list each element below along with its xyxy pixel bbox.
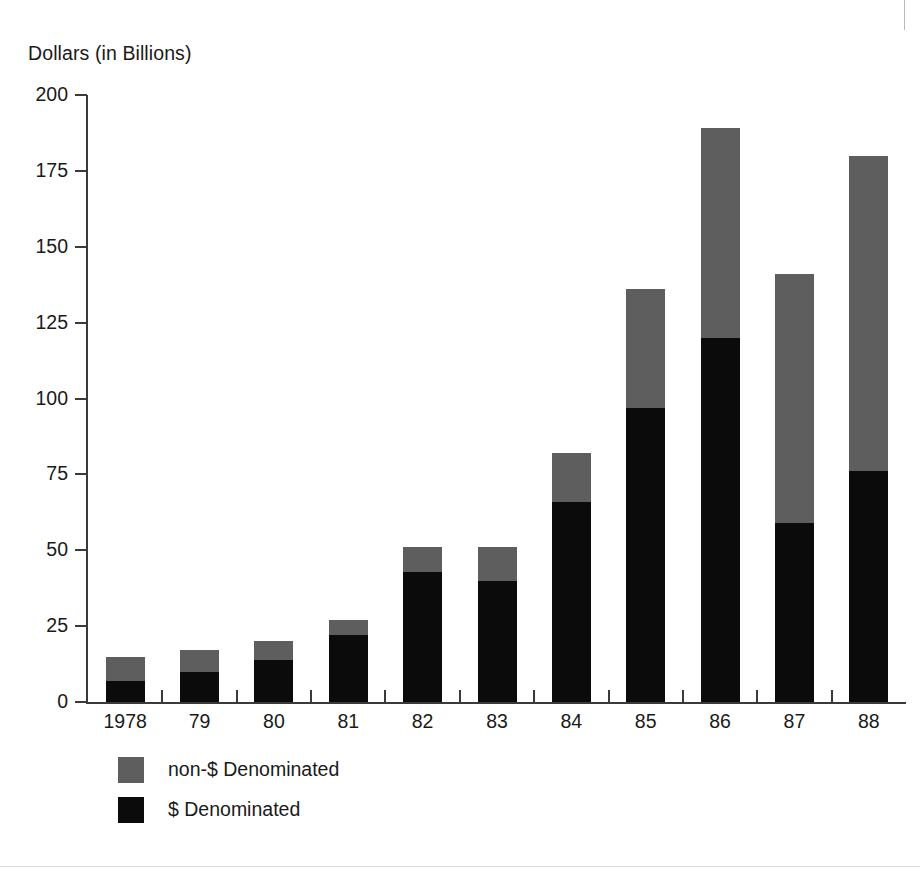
bar-segment-dollar-denominated	[254, 660, 293, 702]
bar-segment-non-dollar-denominated	[106, 657, 145, 681]
bar-segment-dollar-denominated	[626, 408, 665, 702]
bar-segment-non-dollar-denominated	[329, 620, 368, 635]
legend-item: $ Denominated	[118, 790, 538, 830]
legend-label-dollar: $ Denominated	[168, 800, 300, 820]
plot-area: 0255075100125150175200 19787980818283848…	[0, 0, 920, 760]
bar-segment-dollar-denominated	[552, 502, 591, 702]
x-axis-label: 88	[824, 712, 914, 732]
chart-legend: non-$ Denominated$ Denominated	[118, 750, 538, 830]
bar-segment-non-dollar-denominated	[775, 274, 814, 523]
bottom-rule-decoration	[0, 866, 920, 867]
legend-swatch-dollar	[118, 797, 144, 823]
bar-stack	[626, 289, 665, 702]
bar-segment-dollar-denominated	[478, 581, 517, 702]
bar-stack	[701, 128, 740, 702]
bar-segment-non-dollar-denominated	[701, 128, 740, 337]
bar-stack	[552, 453, 591, 702]
bar-segment-dollar-denominated	[849, 471, 888, 702]
bars-layer	[0, 0, 920, 702]
bar-stack	[106, 656, 145, 702]
x-axis-line	[86, 702, 906, 704]
bar-stack	[403, 547, 442, 702]
bar-stack	[775, 274, 814, 702]
chart-page: Dollars (in Billions) 025507510012515017…	[0, 0, 920, 873]
bar-segment-non-dollar-denominated	[849, 156, 888, 472]
bar-stack	[329, 620, 368, 702]
bar-segment-non-dollar-denominated	[626, 289, 665, 407]
bar-segment-dollar-denominated	[329, 635, 368, 702]
bar-segment-dollar-denominated	[403, 572, 442, 703]
bar-segment-non-dollar-denominated	[403, 547, 442, 571]
bar-segment-dollar-denominated	[180, 672, 219, 702]
bar-stack	[180, 650, 219, 702]
legend-item: non-$ Denominated	[118, 750, 538, 790]
bar-segment-dollar-denominated	[701, 338, 740, 702]
legend-swatch-non_dollar	[118, 757, 144, 783]
legend-label-non_dollar: non-$ Denominated	[168, 760, 339, 780]
bar-segment-non-dollar-denominated	[254, 641, 293, 659]
bar-segment-dollar-denominated	[106, 681, 145, 702]
bar-segment-non-dollar-denominated	[180, 650, 219, 671]
bar-stack	[478, 547, 517, 702]
bar-segment-non-dollar-denominated	[478, 547, 517, 580]
bar-stack	[849, 156, 888, 702]
bar-segment-dollar-denominated	[775, 523, 814, 702]
bar-segment-non-dollar-denominated	[552, 453, 591, 502]
bar-stack	[254, 641, 293, 702]
